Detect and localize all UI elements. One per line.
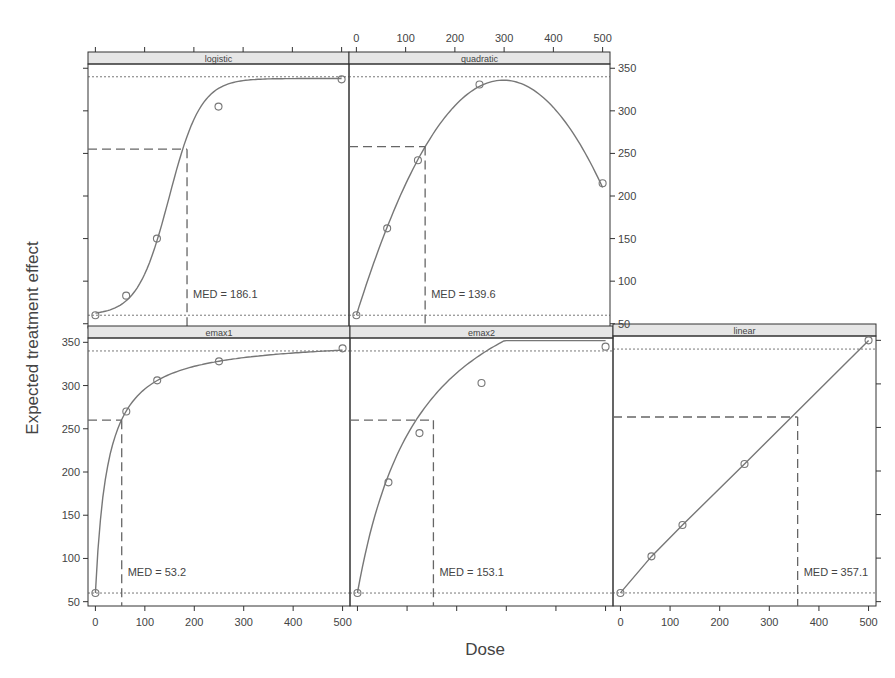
x-tick-label: 500 [333,616,351,628]
med-label: MED = 53.2 [128,566,186,578]
x-tick-label: 100 [661,616,679,628]
y-tick-label: 300 [618,105,636,117]
fitted-curve [357,341,605,593]
x-tick-label: 0 [353,32,359,44]
panel-quadratic: quadraticMED = 139.6 [349,52,610,328]
panel-linear: linearMED = 357.1 [613,324,876,606]
y-axis-title: Expected treatment effect [23,241,43,434]
panel-logistic: logisticMED = 186.1 [88,52,349,328]
x-tick-label: 400 [544,32,562,44]
y-tick-label: 350 [618,62,636,74]
x-tick-label: 200 [446,32,464,44]
y-tick-label: 250 [618,147,636,159]
y-tick-label: 150 [618,233,636,245]
y-tick-label: 250 [62,423,80,435]
med-label: MED = 139.6 [431,288,496,300]
x-tick-label: 500 [593,32,611,44]
dose-point [215,103,222,110]
y-tick-label: 350 [62,336,80,348]
strip-label: emax2 [468,328,495,338]
dose-point [416,430,423,437]
x-tick-label: 100 [136,616,154,628]
x-tick-label: 0 [617,616,623,628]
fitted-curve [95,79,341,314]
panel-emax1: emax1MED = 53.2 [88,326,350,606]
strip-label: quadratic [461,54,499,64]
med-label: MED = 153.1 [439,566,504,578]
x-tick-label: 400 [284,616,302,628]
fitted-curve [356,80,602,315]
panel-emax2: emax2MED = 153.1 [350,326,613,606]
fitted-curve [95,350,342,593]
fitted-curve [620,340,868,593]
x-tick-label: 0 [92,616,98,628]
y-tick-label: 300 [62,380,80,392]
x-axis-title: Dose [465,640,505,660]
x-tick-label: 500 [859,616,877,628]
y-tick-label: 200 [62,466,80,478]
x-tick-label: 300 [760,616,778,628]
x-tick-label: 200 [185,616,203,628]
x-tick-label: 300 [495,32,513,44]
trellis-chart: logisticMED = 186.1quadraticMED = 139.6e… [0,0,895,678]
y-tick-label: 150 [62,509,80,521]
med-label: MED = 357.1 [804,566,869,578]
strip-label: linear [733,326,755,336]
x-tick-label: 300 [235,616,253,628]
x-tick-label: 400 [810,616,828,628]
dose-point [339,345,346,352]
x-tick-label: 200 [711,616,729,628]
y-tick-label: 200 [618,190,636,202]
strip-label: emax1 [205,328,232,338]
dose-point [865,337,872,344]
med-label: MED = 186.1 [193,288,258,300]
dose-point [602,343,609,350]
y-tick-label: 50 [618,318,630,330]
y-tick-label: 50 [68,596,80,608]
dose-point [478,379,485,386]
x-tick-label: 100 [396,32,414,44]
strip-label: logistic [205,54,233,64]
dose-point [123,292,130,299]
y-tick-label: 100 [62,552,80,564]
y-tick-label: 100 [618,275,636,287]
